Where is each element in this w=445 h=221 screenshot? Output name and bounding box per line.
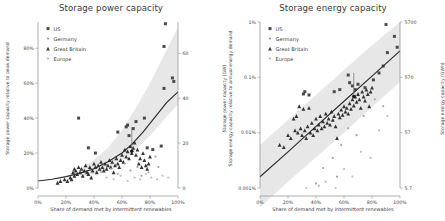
data-point bbox=[87, 146, 90, 149]
y-tick-label: 0% bbox=[27, 186, 35, 191]
data-point bbox=[59, 179, 63, 183]
panel-storage-energy-capacity: Storage energy capacity Storage energy c… bbox=[222, 0, 444, 221]
data-point bbox=[269, 58, 271, 60]
y-tick-label: 20% bbox=[24, 151, 35, 156]
data-point bbox=[163, 87, 166, 90]
x-tick-label: 20% bbox=[61, 200, 72, 205]
data-point bbox=[163, 45, 166, 48]
data-point bbox=[364, 86, 367, 89]
y-tick-label: 0.001% bbox=[238, 186, 256, 191]
legend-item-us[interactable]: US bbox=[269, 26, 283, 32]
data-point bbox=[333, 90, 336, 93]
data-point bbox=[340, 144, 342, 146]
data-point bbox=[117, 165, 121, 169]
data-point bbox=[100, 171, 102, 173]
data-point bbox=[127, 180, 129, 182]
highlight-point bbox=[352, 95, 356, 99]
data-point bbox=[363, 115, 365, 117]
data-point bbox=[145, 167, 149, 171]
data-point bbox=[126, 124, 129, 127]
legend-item-great-britain[interactable]: Great Britain bbox=[46, 46, 86, 52]
data-point bbox=[137, 162, 141, 166]
series-europe bbox=[106, 173, 170, 182]
data-point bbox=[372, 78, 375, 81]
x-tick-label: 100% bbox=[171, 200, 185, 205]
plot-area-power: 0%20%40%60%80%100%0%20%40%60%80%0204060 … bbox=[0, 0, 222, 221]
legend-label: US bbox=[54, 26, 61, 32]
data-point bbox=[335, 187, 337, 189]
data-point bbox=[148, 171, 150, 173]
data-point bbox=[357, 83, 360, 86]
y-tick-label-right: 5.7 bbox=[405, 186, 412, 191]
x-tick-label: 20% bbox=[283, 200, 294, 205]
data-point bbox=[116, 131, 119, 134]
y-tick-label-right: 40 bbox=[183, 96, 189, 101]
data-point bbox=[315, 183, 317, 185]
legend-label: Germany bbox=[54, 36, 77, 43]
legend-item-us[interactable]: US bbox=[47, 26, 61, 32]
x-tick-label: 40% bbox=[89, 200, 100, 205]
legend-label: Great Britain bbox=[276, 46, 309, 52]
data-point bbox=[378, 129, 380, 131]
data-point bbox=[145, 173, 147, 175]
legend-label: Europe bbox=[54, 56, 72, 63]
data-point bbox=[124, 162, 126, 164]
data-point bbox=[146, 146, 149, 149]
data-point bbox=[370, 157, 372, 159]
data-point bbox=[348, 81, 351, 84]
y-tick-label: 0.01% bbox=[241, 130, 256, 135]
data-point bbox=[167, 176, 169, 178]
legend-item-europe[interactable]: Europe bbox=[269, 56, 294, 63]
data-point bbox=[106, 176, 108, 178]
data-point bbox=[63, 177, 67, 181]
data-point bbox=[94, 152, 97, 155]
data-point bbox=[155, 155, 157, 157]
data-point bbox=[269, 38, 271, 40]
data-point bbox=[308, 93, 311, 96]
uncertainty-band bbox=[80, 27, 178, 177]
data-point bbox=[138, 156, 142, 160]
y-tick-label: 60% bbox=[24, 81, 35, 86]
x-tick-label: 60% bbox=[117, 200, 128, 205]
trend-line bbox=[260, 51, 400, 177]
data-point bbox=[164, 22, 167, 25]
data-point bbox=[47, 58, 49, 60]
data-point bbox=[332, 157, 334, 159]
data-point bbox=[140, 165, 144, 169]
data-point bbox=[134, 176, 136, 178]
x-tick-label: 60% bbox=[339, 200, 350, 205]
y-tick-label: 40% bbox=[24, 116, 35, 121]
y-tick-label-right: 57 bbox=[405, 130, 411, 135]
y-tick-label: 80% bbox=[24, 46, 35, 51]
data-point bbox=[47, 38, 49, 40]
legend-label: Germany bbox=[276, 36, 299, 43]
y-tick-label: 1% bbox=[249, 20, 257, 25]
data-point bbox=[157, 166, 159, 168]
data-point bbox=[110, 168, 112, 170]
data-point bbox=[139, 178, 141, 180]
data-point bbox=[172, 80, 175, 83]
data-point bbox=[378, 71, 381, 74]
data-point bbox=[336, 176, 338, 178]
data-point bbox=[393, 35, 396, 38]
legend-item-germany[interactable]: Germany bbox=[269, 36, 299, 43]
data-point bbox=[117, 173, 119, 175]
y-tick-label-right: 570 bbox=[405, 75, 414, 80]
legend-item-great-britain[interactable]: Great Britain bbox=[268, 46, 308, 52]
highlight-point bbox=[130, 150, 134, 154]
data-point bbox=[305, 187, 307, 189]
x-tick-label: 0% bbox=[34, 200, 42, 205]
data-point bbox=[128, 134, 131, 137]
data-point bbox=[113, 178, 115, 180]
data-point bbox=[112, 170, 116, 174]
data-point bbox=[269, 27, 272, 30]
legend-label: US bbox=[276, 26, 283, 32]
x-tick-label: 0% bbox=[256, 200, 264, 205]
legend-item-germany[interactable]: Germany bbox=[47, 36, 77, 43]
data-point bbox=[356, 134, 358, 136]
data-point bbox=[148, 155, 152, 159]
y-tick-label: 0.1% bbox=[244, 75, 256, 80]
legend-item-europe[interactable]: Europe bbox=[47, 56, 72, 63]
data-point bbox=[318, 185, 320, 187]
